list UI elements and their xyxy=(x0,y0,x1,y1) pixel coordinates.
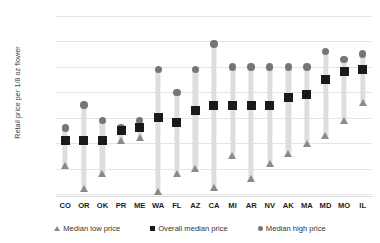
plot-area: $10$20$30$40$50$60$70$80 xyxy=(56,16,372,194)
data-column xyxy=(93,16,112,194)
range-bar xyxy=(156,69,161,191)
overall-median-marker xyxy=(135,123,144,132)
y-axis-title: Retail price per 1/8 oz flower xyxy=(13,13,22,173)
range-bar xyxy=(174,92,179,173)
triangle-icon xyxy=(54,226,60,231)
data-column xyxy=(335,16,354,194)
median-low-marker xyxy=(284,150,292,157)
data-column xyxy=(353,16,372,194)
median-high-marker xyxy=(192,66,199,73)
median-low-marker xyxy=(359,99,367,106)
median-high-marker xyxy=(322,48,329,55)
overall-median-marker xyxy=(172,118,181,127)
legend-label: Median high price xyxy=(266,224,326,233)
overall-median-marker xyxy=(98,136,107,145)
legend-item: Median low price xyxy=(54,224,120,233)
overall-median-marker xyxy=(191,106,200,115)
chart-legend: Median low priceOverall median priceMedi… xyxy=(0,224,380,233)
range-bar xyxy=(304,67,309,143)
data-column xyxy=(279,16,298,194)
median-low-marker xyxy=(247,175,255,182)
median-low-marker xyxy=(61,162,69,169)
range-bar xyxy=(323,52,328,136)
overall-median-marker xyxy=(340,67,349,76)
data-column xyxy=(298,16,317,194)
range-bar xyxy=(286,67,291,153)
overall-median-marker xyxy=(209,101,218,110)
data-column xyxy=(242,16,261,194)
overall-median-marker xyxy=(61,136,70,145)
median-low-marker xyxy=(340,117,348,124)
median-low-marker xyxy=(98,170,106,177)
legend-label: Overall median price xyxy=(158,224,228,233)
overall-median-marker xyxy=(117,126,126,135)
median-high-marker xyxy=(173,89,180,96)
median-high-marker xyxy=(247,63,254,70)
data-column xyxy=(260,16,279,194)
median-high-marker xyxy=(285,63,292,70)
circle-icon xyxy=(258,226,263,231)
range-bar xyxy=(230,67,235,156)
median-high-marker xyxy=(155,66,162,73)
overall-median-marker xyxy=(321,75,330,84)
data-column xyxy=(168,16,187,194)
median-low-marker xyxy=(136,134,144,141)
range-bar xyxy=(267,67,272,164)
overall-median-marker xyxy=(247,101,256,110)
overall-median-marker xyxy=(358,65,367,74)
data-column xyxy=(186,16,205,194)
data-column xyxy=(75,16,94,194)
data-column xyxy=(130,16,149,194)
data-column xyxy=(56,16,75,194)
legend-label: Median low price xyxy=(63,224,120,233)
data-column xyxy=(205,16,224,194)
data-column xyxy=(149,16,168,194)
overall-median-marker xyxy=(79,136,88,145)
overall-median-marker xyxy=(228,101,237,110)
range-bar xyxy=(249,67,254,179)
median-high-marker xyxy=(266,63,273,70)
overall-median-marker xyxy=(154,113,163,122)
median-high-marker xyxy=(62,124,69,131)
range-bar xyxy=(63,128,68,166)
median-low-marker xyxy=(154,188,162,195)
median-high-marker xyxy=(80,101,87,108)
median-high-marker xyxy=(99,117,106,124)
overall-median-marker xyxy=(284,93,293,102)
median-low-marker xyxy=(117,137,125,144)
square-icon xyxy=(150,226,155,231)
range-bar xyxy=(100,120,105,173)
range-bar xyxy=(193,69,198,168)
median-low-marker xyxy=(228,152,236,159)
legend-item: Median high price xyxy=(258,224,326,233)
median-low-marker xyxy=(303,140,311,147)
legend-item: Overall median price xyxy=(150,224,228,233)
data-column xyxy=(112,16,131,194)
median-low-marker xyxy=(80,185,88,192)
range-bar xyxy=(360,54,365,102)
gridline xyxy=(56,194,372,195)
median-low-marker xyxy=(321,132,329,139)
range-bar xyxy=(81,105,86,189)
price-range-chart: Retail price per 1/8 oz flower $10$20$30… xyxy=(0,0,380,243)
median-high-marker xyxy=(210,40,217,47)
overall-median-marker xyxy=(265,101,274,110)
median-low-marker xyxy=(173,170,181,177)
median-low-marker xyxy=(266,160,274,167)
median-high-marker xyxy=(229,63,236,70)
overall-median-marker xyxy=(302,90,311,99)
median-high-marker xyxy=(340,56,347,63)
median-low-marker xyxy=(210,184,218,191)
median-high-marker xyxy=(303,63,310,70)
x-axis-tick-label: IL xyxy=(348,201,378,210)
median-high-marker xyxy=(359,50,366,57)
range-bar xyxy=(211,44,216,188)
x-axis: COOROKPRMEWAFLAZCAMIARNVAKMAMDMOIL xyxy=(56,196,372,213)
median-low-marker xyxy=(191,165,199,172)
data-column xyxy=(223,16,242,194)
data-column xyxy=(316,16,335,194)
